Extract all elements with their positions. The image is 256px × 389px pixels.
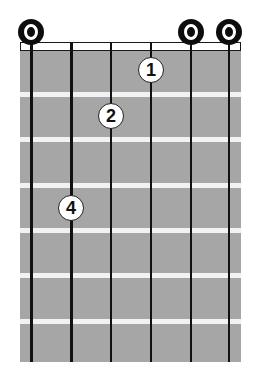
fret-line-1: [20, 92, 241, 97]
string-5: [190, 42, 192, 362]
string-3: [110, 42, 112, 362]
fret-line-5: [20, 273, 241, 278]
string-6: [228, 42, 230, 362]
finger-marker-2: 2: [98, 103, 124, 129]
open-string-marker-6: [216, 19, 242, 45]
open-ring-icon: [222, 24, 236, 40]
open-ring-icon: [184, 24, 198, 40]
open-string-marker-1: [18, 19, 44, 45]
open-string-marker-5: [178, 19, 204, 45]
fret-line-4: [20, 228, 241, 233]
fret-line-2: [20, 137, 241, 142]
finger-marker-1: 1: [138, 57, 164, 83]
nut: [20, 42, 241, 51]
fret-line-6: [20, 319, 241, 324]
fret-line-3: [20, 183, 241, 188]
open-ring-icon: [24, 24, 38, 40]
string-4: [150, 42, 152, 362]
finger-marker-4: 4: [58, 195, 84, 221]
string-1: [30, 42, 33, 362]
